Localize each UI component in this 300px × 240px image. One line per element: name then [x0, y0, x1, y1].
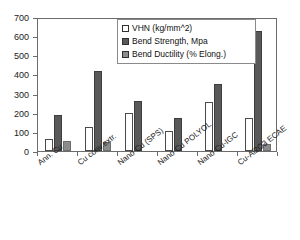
legend-label: Bend Strength, Mpa	[132, 37, 208, 46]
x-axis-labels: Ann. CuCu conv.extr.Nano Cu (SPS)Nano Cu…	[0, 156, 300, 240]
y-axis-tick-label: 600	[14, 33, 29, 42]
legend-item: Bend Strength, Mpa	[122, 36, 251, 47]
y-axis-tick-label: 400	[14, 71, 29, 80]
legend-label: VHN (kg/mm^2)	[132, 24, 192, 33]
legend-item: Bend Ductility (% Elong.)	[122, 49, 251, 60]
y-axis-tick-label: 500	[14, 52, 29, 61]
legend-swatch-ductility	[122, 51, 129, 58]
legend-swatch-strength	[122, 38, 129, 45]
bar-chart: 7006005004003002001000 VHN (kg/mm^2)Bend…	[0, 0, 300, 240]
legend: VHN (kg/mm^2)Bend Strength, MpaBend Duct…	[117, 19, 256, 64]
legend-label: Bend Ductility (% Elong.)	[132, 50, 226, 59]
bar-group	[38, 19, 78, 151]
y-axis-tick-label: 100	[14, 129, 29, 138]
bar-vhn	[125, 113, 134, 151]
legend-swatch-vhn	[122, 25, 129, 32]
y-axis: 7006005004003002001000	[0, 12, 34, 158]
bar-ductility	[63, 141, 72, 151]
y-axis-tick-label: 200	[14, 110, 29, 119]
y-axis-tick-label: 700	[14, 14, 29, 23]
legend-item: VHN (kg/mm^2)	[122, 23, 251, 34]
y-axis-tick-label: 300	[14, 91, 29, 100]
